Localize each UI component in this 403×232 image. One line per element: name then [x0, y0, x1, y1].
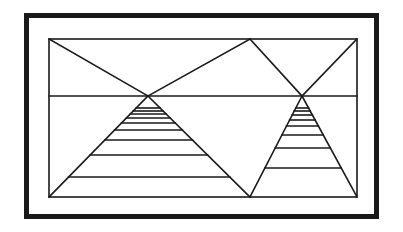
illusion-figure-canvas — [0, 0, 403, 232]
perspective-figure — [0, 0, 403, 232]
